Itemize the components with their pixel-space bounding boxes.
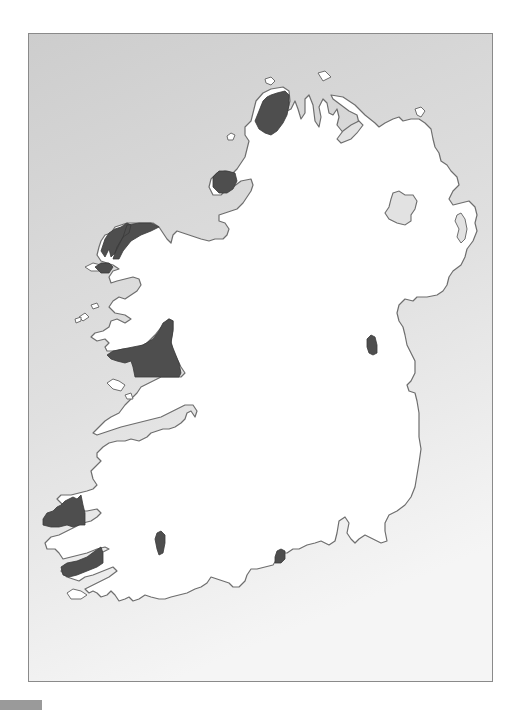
page: Map of Ireland with shaded regions bbox=[0, 0, 521, 710]
ireland-map bbox=[29, 34, 493, 682]
map-frame bbox=[28, 33, 493, 682]
shaded-meath bbox=[367, 335, 377, 355]
corner-bar bbox=[0, 700, 42, 710]
